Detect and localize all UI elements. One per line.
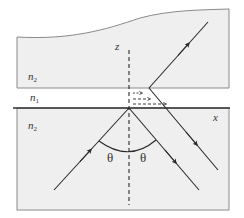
z-axis-label: z xyxy=(114,40,120,52)
x-axis-label: x xyxy=(212,111,218,123)
upper-medium-region xyxy=(17,9,229,88)
angle-label-left: θ xyxy=(107,150,113,165)
lower-medium-region xyxy=(17,108,229,210)
gap-medium-label: n1 xyxy=(30,91,40,105)
angle-label-right: θ xyxy=(140,150,146,165)
frustrated-tir-diagram: n2 n1 n2 z x θ θ xyxy=(0,0,244,218)
